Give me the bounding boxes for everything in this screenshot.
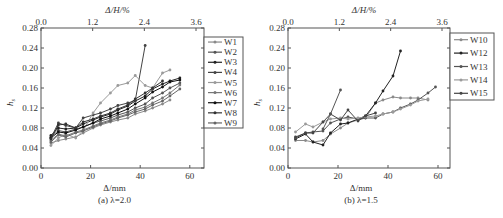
x-tick-label: 0 — [39, 171, 44, 181]
top-x-tick-label: 3.6 — [190, 17, 202, 27]
y-tick-label: 0.04 — [22, 143, 38, 153]
y-tick-label: 0.04 — [269, 143, 285, 153]
x-axis-label: Δ/mm — [103, 183, 125, 193]
y-tick-label: 0.12 — [22, 103, 38, 113]
legend-entry: W12 — [470, 48, 488, 58]
y-tick-label: 0.20 — [269, 63, 285, 73]
series-W14 — [294, 98, 429, 134]
x-axis-label: Δ/mm — [350, 183, 372, 193]
y-tick-label: 0.20 — [22, 63, 38, 73]
y-tick-label: 0.08 — [22, 123, 38, 133]
legend-entry: W9 — [224, 118, 237, 128]
legend-entry: W10 — [470, 35, 488, 45]
panel-caption: (a) λ=2.0 — [98, 195, 131, 205]
top-axis-label: Δ/H/% — [104, 5, 129, 15]
figure: 0.000.040.080.120.160.200.240.2802040600… — [0, 0, 503, 218]
legend: W10W12W13W14W15 — [450, 33, 494, 100]
legend-entry: W6 — [224, 88, 237, 98]
x-tick-label: 20 — [86, 171, 96, 181]
y-tick-label: 0.00 — [22, 163, 38, 173]
y-tick-label: 0.00 — [269, 163, 285, 173]
legend-entry: W5 — [224, 78, 237, 88]
top-axis-label: Δ/H/% — [351, 5, 376, 15]
top-x-tick-label: 0.0 — [35, 17, 47, 27]
top-x-tick-label: 2.4 — [139, 17, 151, 27]
y-tick-label: 0.08 — [269, 123, 285, 133]
legend-entry: W2 — [224, 47, 237, 57]
x-tick-label: 60 — [434, 171, 444, 181]
chart-panel-b: 0.000.040.080.120.160.200.240.2802040600… — [252, 5, 494, 205]
y-tick-label: 0.24 — [269, 43, 285, 53]
top-x-tick-label: 1.2 — [334, 17, 345, 27]
legend-entry: W15 — [470, 88, 488, 98]
legend-entry: W8 — [224, 108, 237, 118]
x-tick-label: 60 — [185, 171, 195, 181]
top-x-tick-label: 3.6 — [436, 17, 448, 27]
legend-entry: W13 — [470, 62, 488, 72]
x-tick-label: 40 — [136, 171, 146, 181]
y-axis-label: hs — [252, 99, 263, 107]
chart-panel-a: 0.000.040.080.120.160.200.240.2802040600… — [5, 5, 243, 205]
legend-entry: W4 — [224, 67, 237, 77]
series-W10 — [294, 96, 429, 144]
y-tick-label: 0.24 — [22, 43, 38, 53]
legend-entry: W14 — [470, 75, 488, 85]
legend-entry: W7 — [224, 98, 237, 108]
top-x-tick-label: 2.4 — [385, 17, 397, 27]
y-tick-label: 0.12 — [269, 103, 285, 113]
top-x-tick-label: 0.0 — [282, 17, 294, 27]
top-x-tick-label: 1.2 — [87, 17, 98, 27]
x-tick-label: 0 — [286, 171, 291, 181]
y-axis-label: hs — [5, 99, 16, 107]
plot-frame — [288, 28, 450, 168]
legend-entry: W3 — [224, 57, 237, 67]
x-tick-label: 20 — [334, 171, 344, 181]
plot-frame — [41, 28, 204, 168]
x-tick-label: 40 — [384, 171, 394, 181]
legend: W1W2W3W4W5W6W7W8W9 — [204, 37, 243, 128]
y-tick-label: 0.16 — [269, 83, 285, 93]
y-tick-label: 0.16 — [22, 83, 38, 93]
legend-entry: W1 — [224, 37, 237, 47]
series-W15b — [322, 89, 342, 131]
panel-caption: (b) λ=1.5 — [344, 195, 378, 205]
series-W13 — [294, 86, 437, 140]
